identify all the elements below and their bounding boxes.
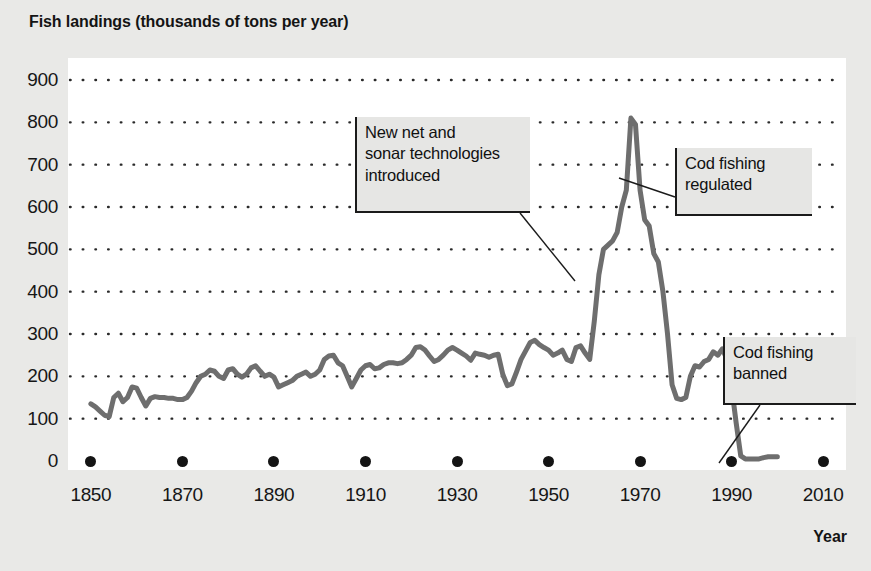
y-axis-tick-label: 800 xyxy=(2,111,58,133)
x-axis-tick-label: 2010 xyxy=(788,484,858,506)
x-axis-tick-label: 1930 xyxy=(422,484,492,506)
x-axis-tick-label: 1910 xyxy=(330,484,400,506)
y-axis-tick-label: 700 xyxy=(2,154,58,176)
x-axis-tick-dot xyxy=(360,456,371,467)
x-axis-tick-dot xyxy=(635,456,646,467)
x-axis-tick-label: 1970 xyxy=(605,484,675,506)
y-axis-tick-label: 900 xyxy=(2,69,58,91)
y-axis-tick-label: 400 xyxy=(2,281,58,303)
annotation-cod-banned: Cod fishing banned xyxy=(723,337,856,405)
x-axis-tick-dot xyxy=(726,456,737,467)
x-axis-tick-label: 1870 xyxy=(147,484,217,506)
x-axis-tick-label: 1850 xyxy=(56,484,126,506)
x-axis-tick-dot xyxy=(268,456,279,467)
annotation-cod-regulated: Cod fishing regulated xyxy=(675,148,812,216)
y-axis-tick-label: 100 xyxy=(2,408,58,430)
x-axis-tick-dot xyxy=(177,456,188,467)
x-axis-tick-dot xyxy=(818,456,829,467)
x-axis-tick-label: 1990 xyxy=(697,484,767,506)
fish-landings-chart-figure: Fish landings (thousands of tons per yea… xyxy=(0,0,871,571)
x-axis-tick-label: 1950 xyxy=(514,484,584,506)
annotation-new-net-sonar: New net and sonar technologies introduce… xyxy=(355,117,530,213)
x-axis-tick-dot xyxy=(452,456,463,467)
y-axis-tick-label: 600 xyxy=(2,196,58,218)
y-axis-tick-label: 300 xyxy=(2,323,58,345)
x-axis-tick-label: 1890 xyxy=(239,484,309,506)
x-axis-tick-dot xyxy=(543,456,554,467)
y-axis-tick-label: 200 xyxy=(2,365,58,387)
y-axis-tick-label: 500 xyxy=(2,238,58,260)
y-axis-tick-label: 0 xyxy=(2,450,58,472)
chart-title: Fish landings (thousands of tons per yea… xyxy=(29,13,348,31)
x-axis-tick-dot xyxy=(85,456,96,467)
x-axis-title: Year xyxy=(813,528,847,546)
